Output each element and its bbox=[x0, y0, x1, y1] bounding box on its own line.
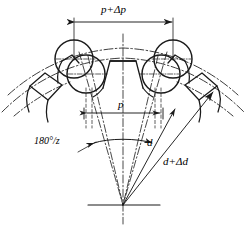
gear-tooth-outer-left bbox=[27, 73, 62, 122]
label-diameter-delta: d+Δd bbox=[163, 155, 188, 167]
angle-leader-line bbox=[78, 142, 96, 152]
label-angle: 180°/z bbox=[34, 135, 60, 146]
label-diameter: d bbox=[147, 136, 153, 148]
diagram-canvas: p+Δp p 180°/z d d+Δd bbox=[0, 0, 247, 226]
gear-measurement-drawing bbox=[0, 0, 247, 226]
extension-line-upper bbox=[74, 18, 173, 60]
label-pitch-upper: p+Δp bbox=[101, 3, 126, 15]
label-pitch-lower: p bbox=[118, 98, 124, 110]
